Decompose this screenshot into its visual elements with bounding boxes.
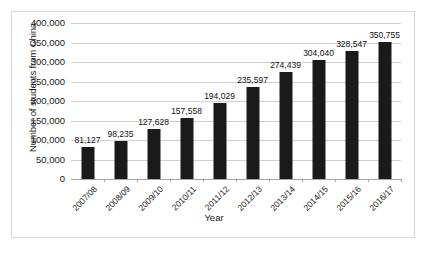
bar[interactable]: [114, 141, 127, 179]
x-axis-tick-label: 2015/16: [331, 184, 362, 215]
bar-value-label: 127,628: [138, 117, 169, 127]
bar-group[interactable]: 157,558: [170, 23, 203, 179]
bar[interactable]: [246, 87, 259, 179]
y-axis-tick-label: 400,000: [0, 17, 65, 28]
bar[interactable]: [279, 72, 292, 179]
bar-group[interactable]: 235,597: [236, 23, 269, 179]
bar[interactable]: [180, 118, 193, 179]
bar-group[interactable]: 304,040: [302, 23, 335, 179]
x-axis-tickmark: [269, 179, 270, 182]
bar[interactable]: [213, 103, 226, 179]
bar-value-label: 81,127: [75, 135, 101, 145]
x-axis-tick-label: 2009/10: [133, 184, 164, 215]
bar-group[interactable]: 350,755: [368, 23, 401, 179]
bar-group[interactable]: 127,628: [137, 23, 170, 179]
bar-value-label: 157,558: [171, 106, 202, 116]
x-axis-tick-label: 2011/12: [199, 184, 230, 215]
bar-group[interactable]: 274,439: [269, 23, 302, 179]
bar[interactable]: [345, 51, 358, 179]
plot-area: 400,000350,000300,000250,000200,000150,0…: [71, 23, 401, 179]
y-axis-tick-label: 350,000: [0, 37, 65, 48]
x-axis-tickmark: [401, 179, 402, 182]
y-axis-tick-label: 0: [0, 173, 65, 184]
x-axis-tickmark: [104, 179, 105, 182]
bar-value-label: 274,439: [270, 60, 301, 70]
x-axis-tickmark: [137, 179, 138, 182]
x-axis-tick-label: 2007/08: [67, 184, 98, 215]
x-axis-tick-label: 2016/17: [364, 184, 395, 215]
x-axis-tickmark: [368, 179, 369, 182]
x-axis-tickmark: [203, 179, 204, 182]
x-axis-tick-label: 2012/13: [232, 184, 263, 215]
bar-value-label: 304,040: [303, 48, 334, 58]
bar-value-label: 235,597: [237, 75, 268, 85]
bar[interactable]: [147, 129, 160, 179]
y-axis-tick-label: 250,000: [0, 76, 65, 87]
x-axis-tick-label: 2013/14: [265, 184, 296, 215]
x-axis-tickmark: [170, 179, 171, 182]
bar[interactable]: [81, 147, 94, 179]
y-axis-tick-label: 100,000: [0, 134, 65, 145]
x-axis-tick-label: 2008/09: [100, 184, 131, 215]
y-axis-tick-label: 50,000: [0, 154, 65, 165]
bar-value-label: 328,547: [336, 39, 367, 49]
x-axis-tick-label: 2014/15: [298, 184, 329, 215]
bar[interactable]: [378, 42, 391, 179]
x-axis-tickmark: [236, 179, 237, 182]
x-axis-tickmark: [335, 179, 336, 182]
bar-value-label: 194,029: [204, 91, 235, 101]
x-axis-tickmark: [302, 179, 303, 182]
bar-value-label: 98,235: [108, 129, 134, 139]
bar-value-label: 350,755: [369, 30, 400, 40]
bar[interactable]: [312, 60, 325, 179]
y-axis-tick-label: 200,000: [0, 95, 65, 106]
bar-group[interactable]: 328,547: [335, 23, 368, 179]
bar-group[interactable]: 194,029: [203, 23, 236, 179]
chart-container: Number of students from China Year 400,0…: [11, 11, 415, 238]
bar-group[interactable]: 98,235: [104, 23, 137, 179]
y-axis-tick-label: 150,000: [0, 115, 65, 126]
x-axis-tick-label: 2010/11: [166, 184, 197, 215]
y-axis-tick-label: 300,000: [0, 56, 65, 67]
y-axis-title: Number of students from China: [27, 3, 38, 173]
bar-group[interactable]: 81,127: [71, 23, 104, 179]
